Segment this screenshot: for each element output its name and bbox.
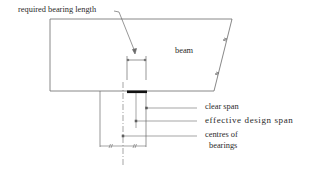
leader-arrow-icon <box>114 11 137 54</box>
required-bearing-length-label: required bearing length <box>18 6 96 14</box>
label-leaders <box>122 107 197 137</box>
diagram-drawing <box>0 0 314 170</box>
beam-outline <box>50 19 232 91</box>
clear-span-label: clear span <box>205 103 239 111</box>
beam-bearing-diagram: required bearing length beam clear span … <box>0 0 314 170</box>
bearing-length-dimension <box>127 56 146 80</box>
effective-design-span-label: effective design span <box>205 116 293 125</box>
break-mark-icon <box>215 38 227 75</box>
bearing-bar <box>127 91 147 94</box>
centres-of-bearings-label-line2: bearings <box>209 142 237 150</box>
beam-label: beam <box>175 47 193 55</box>
centres-of-bearings-label-line1: centres of <box>205 131 238 139</box>
bottom-dimension <box>100 144 146 148</box>
